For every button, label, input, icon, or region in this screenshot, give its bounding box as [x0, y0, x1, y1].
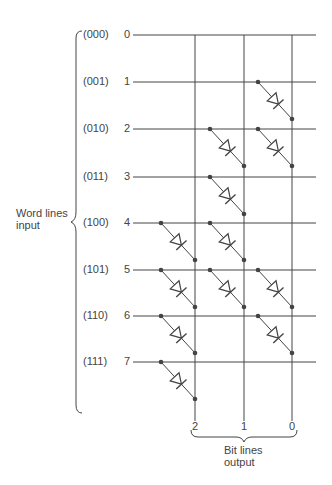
word-line-index: 7 — [124, 355, 130, 367]
word-line-code: (111) — [83, 355, 107, 367]
bit-lines-label: Bit lines output — [224, 444, 263, 468]
word-line-code: (000) — [83, 28, 109, 40]
word-line-index: 6 — [124, 309, 130, 321]
word-lines-label-line2: input — [16, 219, 68, 231]
word-lines-label-line1: Word lines — [16, 207, 68, 219]
word-line-code: (101) — [83, 263, 109, 275]
word-line-index: 2 — [124, 122, 130, 134]
word-line-code: (100) — [83, 216, 109, 228]
word-line-index: 5 — [124, 263, 130, 275]
word-line-index: 3 — [124, 170, 130, 182]
bit-line-index: 2 — [192, 420, 198, 432]
diode-matrix-diagram — [0, 0, 332, 485]
word-line-index: 4 — [124, 216, 130, 228]
bit-line-index: 0 — [289, 420, 295, 432]
bit-lines-label-line1: Bit lines — [224, 444, 263, 456]
word-lines-label: Word lines input — [16, 207, 68, 231]
word-lines-brace — [71, 31, 82, 413]
word-line-index: 0 — [124, 28, 130, 40]
bit-lines-label-line2: output — [224, 456, 263, 468]
bit-line-index: 1 — [241, 420, 247, 432]
word-line-code: (010) — [83, 122, 109, 134]
word-line-code: (001) — [83, 75, 109, 87]
word-line-code: (011) — [83, 170, 108, 182]
word-line-code: (110) — [83, 309, 108, 321]
word-line-index: 1 — [124, 75, 130, 87]
